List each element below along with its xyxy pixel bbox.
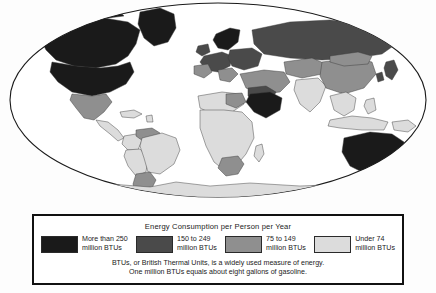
legend-label-line1: Under 74 [355, 235, 395, 244]
legend-label-75-to-149: 75 to 149 million BTUs [266, 235, 306, 252]
legend-label-under-74: Under 74 million BTUs [355, 235, 395, 252]
legend-note-line1: BTUs, or British Thermal Units, is a wid… [34, 259, 402, 268]
legend-title: Energy Consumption per Person per Year [34, 222, 402, 231]
legend-label-line2: million BTUs [177, 244, 217, 253]
region-antarctica [58, 182, 400, 198]
legend-entry-under-74: Under 74 million BTUs [314, 235, 395, 253]
legend-label-line1: 75 to 149 [266, 235, 306, 244]
region-russia [252, 20, 396, 60]
legend-entry-75-to-149: 75 to 149 million BTUs [225, 235, 306, 253]
legend-entry-more-than-250: More than 250 million BTUs [41, 235, 128, 253]
region-argentina-chile [133, 172, 156, 199]
legend-label-line1: More than 250 [82, 235, 128, 244]
region-canada-arctic [60, 7, 124, 19]
legend-label-150-to-249: 150 to 249 million BTUs [177, 235, 217, 252]
world-map [0, 0, 436, 205]
legend-label-more-than-250: More than 250 million BTUs [82, 235, 128, 252]
swatch-more-than-250 [41, 236, 78, 253]
legend-note-line2: One million BTUs equals about eight gall… [34, 268, 402, 277]
legend-entry-150-to-249: 150 to 249 million BTUs [136, 235, 217, 253]
legend-label-line1: 150 to 249 [177, 235, 217, 244]
swatch-150-to-249 [136, 236, 173, 253]
legend-label-line2: million BTUs [82, 244, 128, 253]
legend-entries: More than 250 million BTUs 150 to 249 mi… [34, 235, 402, 253]
region-caribbean-east [146, 115, 153, 122]
legend-label-line2: million BTUs [266, 244, 306, 253]
legend-label-line2: million BTUs [355, 244, 395, 253]
region-new-zealand [413, 162, 426, 180]
swatch-75-to-149 [225, 236, 262, 253]
swatch-under-74 [314, 236, 351, 253]
world-map-svg [0, 0, 436, 205]
map-legend: Energy Consumption per Person per Year M… [32, 214, 404, 285]
legend-notes: BTUs, or British Thermal Units, is a wid… [34, 259, 402, 277]
energy-consumption-map-figure: Energy Consumption per Person per Year M… [0, 0, 436, 293]
